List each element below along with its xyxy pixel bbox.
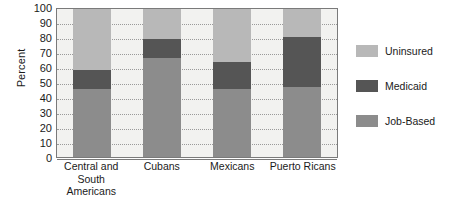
legend-swatch-icon — [356, 115, 378, 127]
bar-segment-job-based[interactable] — [283, 87, 321, 157]
y-axis-tick-label: 30 — [40, 108, 52, 119]
bar-segment-medicaid[interactable] — [73, 70, 111, 89]
legend-swatch-icon — [356, 45, 378, 57]
legend-item-label: Medicaid — [385, 80, 427, 92]
y-axis-tick-label: 80 — [40, 33, 52, 44]
y-axis-tick-label: 40 — [40, 93, 52, 104]
bar-segment-uninsured[interactable] — [213, 9, 251, 62]
x-axis-tick-label: Puerto Ricans — [268, 160, 339, 198]
y-axis-tick-labels: 1009080706050403020100 — [22, 8, 52, 158]
legend-item-label: Job-Based — [385, 115, 435, 127]
bar-segment-medicaid[interactable] — [213, 62, 251, 89]
x-axis-tick-label-line: Central and South — [56, 160, 127, 185]
legend-swatch-icon — [356, 80, 378, 92]
chart-legend: UninsuredMedicaidJob-Based — [356, 44, 451, 149]
legend-item-label: Uninsured — [385, 45, 433, 57]
stacked-bar-chart: Percent 1009080706050403020100 Central a… — [0, 0, 451, 199]
bar-segment-medicaid[interactable] — [143, 39, 181, 58]
x-axis-tick-label: Central and SouthAmericans — [56, 160, 127, 198]
bar-segment-uninsured[interactable] — [143, 9, 181, 39]
bar-segment-job-based[interactable] — [213, 89, 251, 157]
bar-segment-job-based[interactable] — [143, 58, 181, 157]
x-axis-tick-label-line: Puerto Ricans — [268, 160, 339, 173]
bar-column[interactable] — [283, 9, 321, 157]
y-axis-tick-label: 50 — [40, 78, 52, 89]
legend-item[interactable]: Job-Based — [356, 114, 451, 128]
y-axis-tick-label: 0 — [46, 153, 52, 164]
x-axis-tick-label-line: Mexicans — [197, 160, 268, 173]
x-axis-tick-labels: Central and SouthAmericansCubansMexicans… — [56, 160, 338, 198]
x-axis-tick-label: Mexicans — [197, 160, 268, 198]
y-axis-tick-label: 100 — [34, 3, 52, 14]
y-axis-tick-label: 20 — [40, 123, 52, 134]
bar-column[interactable] — [73, 9, 111, 157]
x-axis-tick-label-line: Cubans — [127, 160, 198, 173]
x-axis-tick-label-line: Americans — [56, 185, 127, 198]
bar-segment-medicaid[interactable] — [283, 37, 321, 87]
bar-column[interactable] — [213, 9, 251, 157]
bars-container — [57, 9, 337, 157]
y-axis-tick-label: 10 — [40, 138, 52, 149]
x-axis-tick-label: Cubans — [127, 160, 198, 198]
y-axis-tick-label: 70 — [40, 48, 52, 59]
bar-segment-job-based[interactable] — [73, 89, 111, 157]
bar-segment-uninsured[interactable] — [283, 9, 321, 37]
legend-item[interactable]: Uninsured — [356, 44, 451, 58]
plot-area — [56, 8, 338, 158]
y-axis-tick-label: 60 — [40, 63, 52, 74]
bar-column[interactable] — [143, 9, 181, 157]
legend-item[interactable]: Medicaid — [356, 79, 451, 93]
bar-segment-uninsured[interactable] — [73, 9, 111, 70]
y-axis-tick-label: 90 — [40, 18, 52, 29]
